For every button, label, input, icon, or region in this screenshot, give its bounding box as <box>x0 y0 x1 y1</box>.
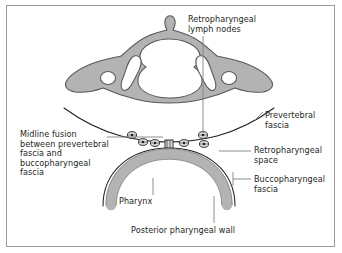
right-transverse-foramen <box>222 72 237 85</box>
left-transverse-foramen <box>101 72 116 85</box>
label-pharynx: Pharynx <box>119 197 152 207</box>
vertebral-foramen <box>138 39 202 98</box>
label-prevertebral-fascia: Prevertebral fascia <box>265 111 315 130</box>
lymph-node <box>179 140 188 147</box>
label-buccopharyngeal-fascia: Buccopharyngeal fascia <box>254 175 325 194</box>
label-posterior-pharyngeal-wall: Posterior pharyngeal wall <box>131 226 235 236</box>
label-retropharyngeal-space: Retropharyngeal space <box>254 146 322 165</box>
midline-fusion-point <box>165 140 173 148</box>
lymph-node <box>199 141 208 148</box>
label-midline-fusion: Midline fusion between prevertebral fasc… <box>20 130 109 178</box>
figure-frame: Retropharyngeal lymph nodes Prevertebral… <box>6 5 335 247</box>
label-retropharyngeal-lymph-nodes: Retropharyngeal lymph nodes <box>188 15 256 34</box>
lymph-node <box>150 140 159 147</box>
lymph-node <box>138 139 147 146</box>
